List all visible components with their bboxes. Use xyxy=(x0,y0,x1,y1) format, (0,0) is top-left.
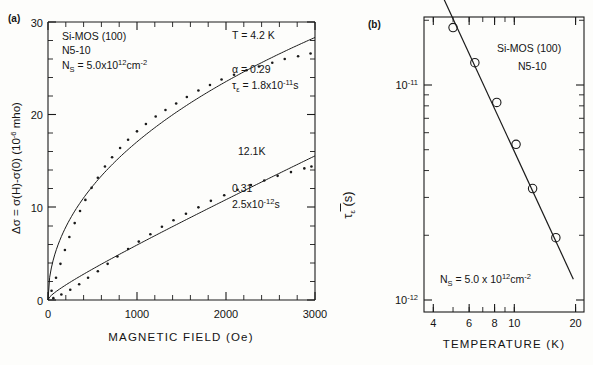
panel-a-curve1-tau-unit: s xyxy=(293,79,298,91)
panel-b-density-unit: cm xyxy=(510,273,524,285)
data-point xyxy=(106,263,109,266)
panel-b-xtick-6: 6 xyxy=(466,317,472,329)
panel-b-density-unit-exp: -2 xyxy=(524,272,531,281)
panel-a-ylabel-exp: -6 xyxy=(9,131,18,138)
data-point xyxy=(59,263,62,266)
data-point xyxy=(233,74,236,77)
panel-a-ytick-20: 20 xyxy=(31,109,43,121)
svg-text:τε (s): τε (s) xyxy=(340,191,357,218)
panel-a-curve2-temperature: 12.1K xyxy=(238,145,265,157)
data-point xyxy=(197,89,200,92)
panel-a-curve2-tau-unit: s xyxy=(274,198,279,210)
data-point xyxy=(116,255,119,258)
data-point xyxy=(137,240,140,243)
panel-b-ylabel-unit: (s) xyxy=(340,191,355,210)
data-point xyxy=(97,270,100,273)
data-point xyxy=(209,84,212,87)
panel-b-density-label: N xyxy=(440,273,448,285)
panel-a-curve1-temperature: T = 4.2 K xyxy=(232,29,275,41)
data-point xyxy=(245,69,248,72)
panel-a-density-exp: 12 xyxy=(118,58,126,67)
data-point xyxy=(119,147,122,150)
data-point xyxy=(220,78,223,81)
panel-b-ylabel: τε (s) xyxy=(340,191,357,218)
data-point xyxy=(73,222,76,225)
data-point xyxy=(97,176,100,179)
svg-text:Δσ = σ(H)-σ(0) (10-6 mho): Δσ = σ(H)-σ(0) (10-6 mho) xyxy=(9,102,22,234)
data-point xyxy=(310,165,313,168)
data-point xyxy=(164,109,167,112)
panel-a-density-value: = 5.0x10 xyxy=(75,59,119,71)
data-point xyxy=(127,248,130,251)
data-point xyxy=(90,187,93,190)
panel-a-sample-material: Si-MOS (100) xyxy=(62,30,126,42)
figure-container: (a) xyxy=(0,0,593,365)
data-point xyxy=(175,102,178,105)
panel-b-ytick-1e-12-base: 10 xyxy=(395,294,407,306)
data-point xyxy=(172,219,175,222)
data-point xyxy=(84,199,87,202)
data-point xyxy=(283,58,286,61)
panel-a-curve1-alpha: α = 0.29 xyxy=(232,63,271,75)
panel-a-ytick-0: 0 xyxy=(37,295,43,307)
data-point xyxy=(64,249,67,252)
data-point xyxy=(303,167,306,170)
data-point xyxy=(250,184,253,187)
data-point xyxy=(186,96,189,99)
panel-a-xlabel: MAGNETIC FIELD (Oe) xyxy=(108,331,253,343)
panel-b-ytick-1e-11-base: 10 xyxy=(395,79,407,91)
data-point xyxy=(297,55,300,58)
data-point xyxy=(79,210,82,213)
panel-a-sample-id: N5-10 xyxy=(62,44,91,56)
data-point xyxy=(50,289,53,292)
panel-a-xtick-1000: 1000 xyxy=(125,308,149,320)
panel-a-label: (a) xyxy=(8,13,20,24)
panel-a-ylabel: Δσ = σ(H)-σ(0) (10-6 mho) xyxy=(9,102,22,234)
panel-a-ytick-30: 30 xyxy=(31,17,43,29)
data-point xyxy=(210,200,213,203)
data-point xyxy=(69,289,72,292)
data-point xyxy=(290,171,293,174)
panel-a-ylabel-p2: mho) xyxy=(10,102,22,132)
panel-b-density-exp: 12 xyxy=(502,272,510,281)
panel-b-xtick-4: 4 xyxy=(430,317,436,329)
data-point xyxy=(149,233,152,236)
panel-b-xtick-20: 20 xyxy=(569,317,581,329)
data-point xyxy=(276,175,279,178)
data-point xyxy=(154,115,157,118)
data-point xyxy=(87,276,90,279)
panel-a-density-unit-exp: -2 xyxy=(140,58,147,67)
data-point xyxy=(78,283,81,286)
data-point xyxy=(145,123,148,126)
data-point xyxy=(263,179,266,182)
panel-a-density-label: N xyxy=(62,59,70,71)
data-point xyxy=(236,188,239,191)
data-point xyxy=(271,61,274,64)
panel-a-curve2-tau-val: 2.5x10 xyxy=(232,198,264,210)
panel-a-density-unit: cm xyxy=(126,59,140,71)
panel-b-xtick-10: 10 xyxy=(508,317,520,329)
data-point xyxy=(197,206,200,209)
figure-svg: (a) xyxy=(0,0,593,365)
panel-b-xtick-8: 8 xyxy=(492,317,498,329)
panel-b-label: (b) xyxy=(368,19,381,30)
data-point xyxy=(111,156,114,159)
data-point xyxy=(185,213,188,216)
panel-a-curve1-tau-exp: -11 xyxy=(283,78,293,87)
panel-b-xlabel: TEMPERATURE (K) xyxy=(443,338,566,350)
panel-a-ytick-10: 10 xyxy=(31,202,43,214)
data-point xyxy=(309,52,312,55)
data-point xyxy=(52,297,55,300)
panel-a-xtick-2000: 2000 xyxy=(214,308,238,320)
panel-b-density-value: = 5.0 x 10 xyxy=(453,273,502,285)
panel-a-ylabel-p1: Δσ = σ(H)-σ(0) (10 xyxy=(10,138,22,234)
data-point xyxy=(136,130,139,133)
data-point xyxy=(55,276,58,279)
data-point xyxy=(127,138,130,141)
data-point xyxy=(60,293,63,296)
panel-a-curve2-tau-exp: -12 xyxy=(264,197,275,206)
panel-b-sample-material: Si-MOS (100) xyxy=(497,42,561,54)
data-point xyxy=(223,194,226,197)
data-point xyxy=(258,65,261,68)
panel-a-xtick-0: 0 xyxy=(45,308,51,320)
